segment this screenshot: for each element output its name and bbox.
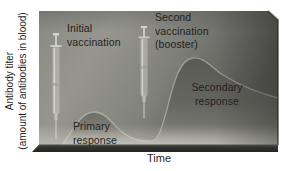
y-axis-label: Antibody titer (amount of antibodies in … [4, 12, 29, 149]
annotation-initial-vaccination: Initial vaccination [67, 22, 121, 49]
immune-response-figure: Antibody titer (amount of antibodies in … [0, 0, 290, 171]
annotation-secondary-response: Secondary response [191, 81, 242, 108]
annotation-second-vaccination: Second vaccination (booster) [155, 11, 209, 52]
x-axis-label: Time [147, 151, 171, 165]
annotation-primary-response: Primary response [73, 120, 117, 147]
chart-canvas [0, 0, 290, 171]
